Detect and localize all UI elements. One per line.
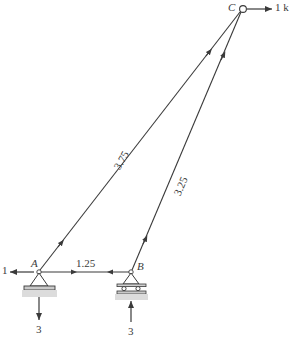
roller-wheel-left — [122, 287, 126, 291]
member-bc — [132, 12, 241, 270]
truss-svg-canvas — [0, 0, 294, 340]
member-ac-arrow-near-c — [206, 51, 210, 56]
joint-label-b: B — [137, 261, 144, 272]
member-bc-arrow-near-b — [143, 238, 146, 244]
truss-diagram: A B C 1.25 3.75 3.25 1 1 k 3 3 — [0, 0, 294, 340]
reaction-at-b-vertical-label: 3 — [128, 326, 134, 337]
force-at-a-horizontal-label: 1 — [2, 265, 8, 276]
member-ac — [40, 12, 240, 270]
joint-label-c: C — [228, 2, 235, 13]
force-at-c-horizontal-label: 1 k — [275, 2, 289, 13]
support-b-roller — [115, 270, 148, 300]
member-ab-length-label: 1.25 — [76, 258, 95, 269]
support-a-pin — [22, 270, 57, 297]
joint-label-a: A — [31, 258, 38, 269]
roller-wheel-right — [136, 287, 140, 291]
member-ac-arrow-near-a — [58, 242, 62, 247]
joint-c-pin-circle — [240, 6, 247, 13]
reaction-at-a-vertical-label: 3 — [36, 324, 42, 335]
